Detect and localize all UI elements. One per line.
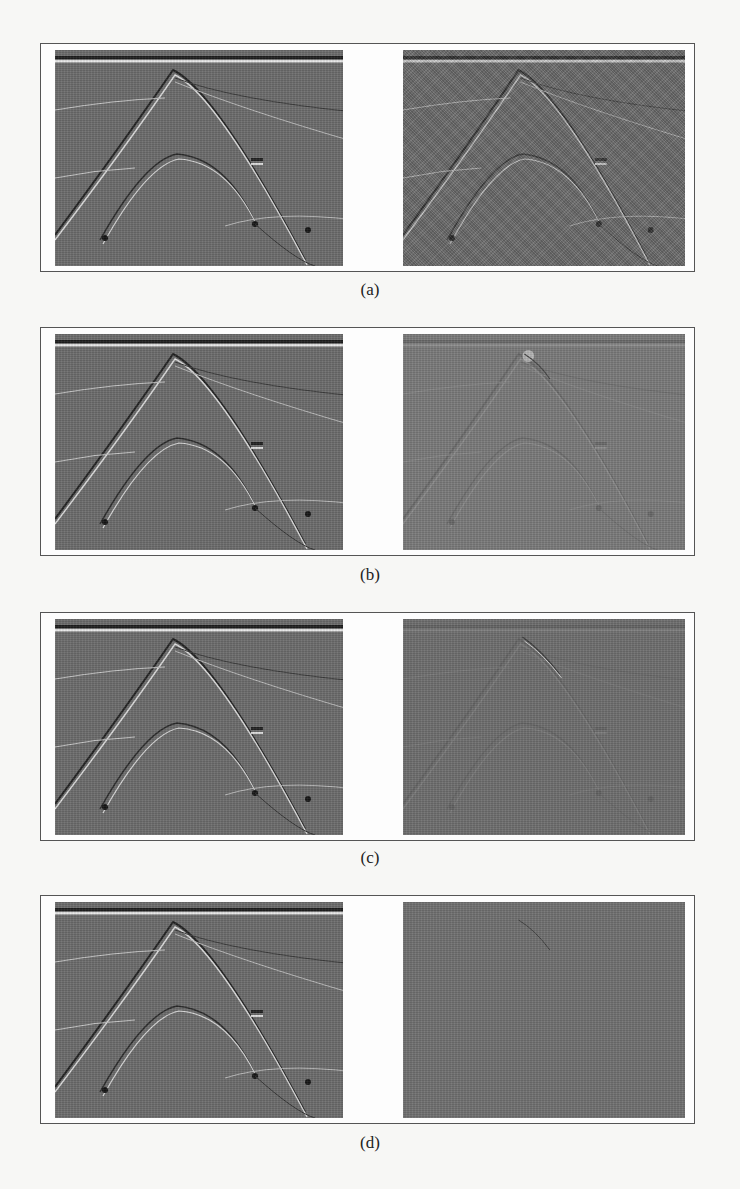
seismic-image-c-right: [403, 619, 685, 835]
seismic-image-a-right: [403, 50, 685, 266]
caption-b: (b): [0, 565, 740, 585]
seismic-image-d-left: [55, 902, 343, 1118]
seismic-image-d-right: [403, 902, 685, 1118]
seismic-image-b-right: [403, 334, 685, 550]
caption-a: (a): [0, 280, 740, 300]
figure-frame-c: [40, 612, 695, 841]
seismic-image-b-left: [55, 334, 343, 550]
caption-d: (d): [0, 1133, 740, 1153]
seismic-image-a-left: [55, 50, 343, 266]
caption-c: (c): [0, 848, 740, 868]
figure-frame-d: [40, 895, 695, 1124]
seismic-image-c-left: [55, 619, 343, 835]
figure-frame-a: [40, 43, 695, 272]
figure-frame-b: [40, 327, 695, 556]
